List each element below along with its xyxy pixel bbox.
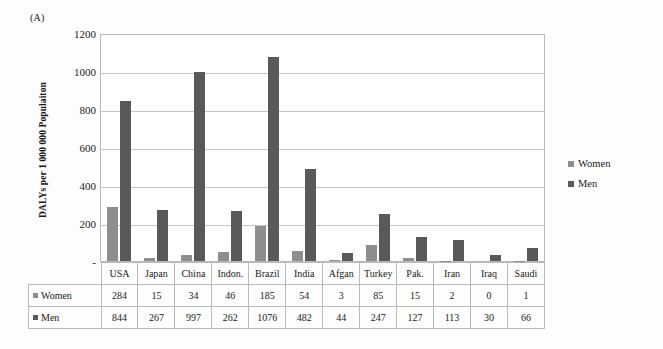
data-table: USAJapanChinaIndon.BrazilIndiaAfganTurke… xyxy=(28,262,545,329)
bar-group xyxy=(249,35,286,261)
panel-label: (A) xyxy=(30,12,44,23)
table-column-header: Turkey xyxy=(360,263,397,285)
table-column-header: Japan xyxy=(138,263,175,285)
bar-women-afgan xyxy=(329,260,340,261)
table-column-header: India xyxy=(286,263,323,285)
bar-group xyxy=(433,35,470,261)
table-row-label: Women xyxy=(41,290,72,301)
table-column-header: Brazil xyxy=(249,263,286,285)
table-column-header: China xyxy=(175,263,212,285)
bar-group xyxy=(212,35,249,261)
square-swatch-icon xyxy=(568,181,574,187)
bar-men-brazil xyxy=(268,57,279,261)
table-cell: 482 xyxy=(286,307,323,329)
bar-men-afgan xyxy=(342,253,353,261)
table-cell: 267 xyxy=(138,307,175,329)
bar-men-turkey xyxy=(379,214,390,261)
y-tick-label: 200 xyxy=(50,218,96,230)
table-cell: 997 xyxy=(175,307,212,329)
bar-women-usa xyxy=(107,207,118,261)
table-cell: 54 xyxy=(286,285,323,307)
table-cell: 3 xyxy=(323,285,360,307)
legend-entry-women: Women xyxy=(568,158,610,169)
table-cell: 247 xyxy=(360,307,397,329)
bar-women-brazil xyxy=(255,226,266,261)
plot-area xyxy=(100,34,545,262)
bar-group xyxy=(470,35,507,261)
bar-men-india xyxy=(305,169,316,261)
bar-group xyxy=(396,35,433,261)
figure-panel-a: (A) DALYs per 1 000 000 Populaiton -2004… xyxy=(0,0,663,349)
bar-group xyxy=(507,35,544,261)
y-tick-label: 400 xyxy=(50,180,96,192)
bar-women-india xyxy=(292,251,303,261)
table-cell: 46 xyxy=(212,285,249,307)
legend-label: Men xyxy=(578,178,597,189)
bar-group xyxy=(323,35,360,261)
table-corner-cell xyxy=(29,263,102,285)
table-cell: 15 xyxy=(397,285,434,307)
table-cell: 44 xyxy=(323,307,360,329)
table-cell: 1076 xyxy=(249,307,286,329)
bar-women-china xyxy=(181,255,192,261)
legend-label: Women xyxy=(578,158,610,169)
table-cell: 185 xyxy=(249,285,286,307)
bar-men-iran xyxy=(453,240,464,261)
y-tick-label: 1000 xyxy=(50,66,96,78)
table-row: Men8442679972621076482442471271133066 xyxy=(29,307,545,329)
table-column-header: Afgan xyxy=(323,263,360,285)
table-row-header-women: Women xyxy=(29,285,102,307)
bar-group xyxy=(286,35,323,261)
bar-men-saudi xyxy=(527,248,538,261)
table-cell: 1 xyxy=(507,285,544,307)
square-swatch-icon xyxy=(33,293,38,298)
bar-women-turkey xyxy=(366,245,377,261)
table-cell: 284 xyxy=(101,285,138,307)
bar-men-china xyxy=(194,72,205,261)
table-cell: 2 xyxy=(434,285,471,307)
table-column-header: Saudi xyxy=(507,263,544,285)
bar-men-iraq xyxy=(490,255,501,261)
table-column-header: Pak. xyxy=(397,263,434,285)
table-cell: 262 xyxy=(212,307,249,329)
table-header-row: USAJapanChinaIndon.BrazilIndiaAfganTurke… xyxy=(29,263,545,285)
table-row: Women2841534461855438515201 xyxy=(29,285,545,307)
bar-men-indon xyxy=(231,211,242,261)
bar-women-japan xyxy=(144,258,155,261)
bar-group xyxy=(101,35,138,261)
bar-men-japan xyxy=(157,210,168,261)
bar-series-layer xyxy=(101,35,544,261)
bar-men-pak xyxy=(416,237,427,261)
square-swatch-icon xyxy=(33,315,38,320)
bar-group xyxy=(359,35,396,261)
table-row-label: Men xyxy=(41,312,59,323)
table-cell: 15 xyxy=(138,285,175,307)
bar-group xyxy=(138,35,175,261)
table-cell: 66 xyxy=(507,307,544,329)
y-tick-label: 1200 xyxy=(50,28,96,40)
y-tick-label: 800 xyxy=(50,104,96,116)
table-cell: 85 xyxy=(360,285,397,307)
y-axis-tick-labels: -20040060080010001200 xyxy=(44,34,96,262)
table-cell: 34 xyxy=(175,285,212,307)
bar-women-indon xyxy=(218,252,229,261)
table-cell: 127 xyxy=(397,307,434,329)
table-row-header-men: Men xyxy=(29,307,102,329)
table-column-header: Indon. xyxy=(212,263,249,285)
bar-women-pak xyxy=(403,258,414,261)
table-column-header: USA xyxy=(101,263,138,285)
table-cell: 30 xyxy=(471,307,508,329)
y-tick-label: 600 xyxy=(50,142,96,154)
table-column-header: Iran xyxy=(434,263,471,285)
table-cell: 113 xyxy=(434,307,471,329)
table-cell: 0 xyxy=(471,285,508,307)
table-cell: 844 xyxy=(101,307,138,329)
table-column-header: Iraq xyxy=(471,263,508,285)
square-swatch-icon xyxy=(568,161,574,167)
bar-group xyxy=(175,35,212,261)
legend: WomenMen xyxy=(568,158,610,198)
legend-entry-men: Men xyxy=(568,178,610,189)
bar-men-usa xyxy=(120,101,131,261)
